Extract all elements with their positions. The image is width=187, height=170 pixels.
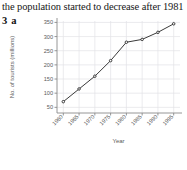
y-axis-tick-label: 300 <box>44 34 53 40</box>
data-point-marker <box>78 88 81 91</box>
x-axis-title: Year <box>112 138 124 144</box>
data-point-marker <box>94 75 97 78</box>
data-point-marker <box>172 23 175 26</box>
data-point-marker <box>141 38 144 41</box>
y-axis-tick-label: 50 <box>47 104 53 110</box>
tourists-line-chart: 5010015020025030035019601965197019751980… <box>0 14 187 170</box>
x-axis-tick-label: 1965 <box>67 113 80 126</box>
chart-canvas: 5010015020025030035019601965197019751980… <box>0 14 187 170</box>
x-axis-tick-label: 1975 <box>98 113 111 126</box>
data-point-marker <box>109 59 112 62</box>
x-axis-tick-label: 1985 <box>130 113 143 126</box>
header-sentence: the population started to decrease after… <box>2 0 187 13</box>
y-axis-tick-label: 200 <box>44 62 53 68</box>
data-point-marker <box>125 41 128 44</box>
y-axis-tick-label: 100 <box>44 90 53 96</box>
x-axis-tick-label: 1970 <box>83 113 96 126</box>
data-point-marker <box>62 100 65 103</box>
screenshot-root: the population started to decrease after… <box>0 0 187 170</box>
x-axis-tick-label: 1980 <box>114 113 127 126</box>
y-axis-tick-label: 250 <box>44 48 53 54</box>
y-axis-tick-label: 150 <box>44 76 53 82</box>
y-axis-title: No. of tourists (millions) <box>9 36 15 99</box>
data-point-marker <box>157 31 160 33</box>
x-axis-tick-label: 1995 <box>161 113 174 126</box>
y-axis-tick-label: 350 <box>44 19 53 25</box>
x-axis-tick-label: 1990 <box>146 113 159 126</box>
x-axis-tick-label: 1960 <box>51 113 64 126</box>
